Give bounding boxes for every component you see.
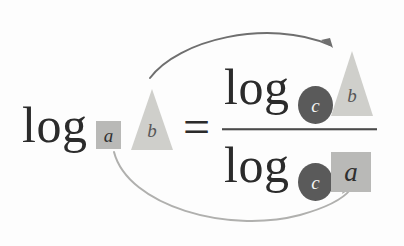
lhs-base-label: a: [104, 126, 114, 145]
lhs-base-square: a: [96, 121, 121, 149]
denominator-argument-square: a: [331, 152, 371, 192]
lhs-argument-label: b: [131, 121, 173, 140]
numerator-base-circle: c: [298, 86, 333, 124]
numerator-argument-label: b: [331, 86, 373, 105]
numerator-argument-triangle-label-wrap: b: [331, 51, 373, 116]
equals-sign: =: [183, 103, 210, 151]
equation-diagram: log a b = log c b log c a: [0, 0, 404, 246]
lhs-log-word: log: [22, 100, 87, 150]
denominator-argument-label: a: [344, 159, 358, 186]
fraction-bar: [222, 128, 377, 130]
denominator-base-circle: c: [298, 163, 333, 201]
numerator-log-word: log: [224, 62, 289, 112]
lhs-argument-triangle-label-wrap: b: [131, 89, 173, 150]
denominator-base-label: c: [311, 173, 319, 192]
denominator-log-word: log: [224, 140, 289, 190]
numerator-base-label: c: [311, 96, 319, 115]
